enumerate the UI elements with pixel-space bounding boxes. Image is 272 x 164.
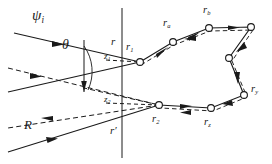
node-label-rb-subscript: b <box>207 9 210 16</box>
dashed-seg-arrow-rz-r2 <box>180 110 191 115</box>
node-label-r2-subscript: 2 <box>156 118 159 125</box>
angle-symbol: θ <box>62 37 69 52</box>
node-r1 <box>137 59 144 66</box>
height-lower-label: z2 <box>104 95 111 105</box>
return-vector-symbol: R <box>24 117 32 132</box>
height-upper-subscript: 1 <box>108 56 111 62</box>
incident-wave-subscript: i <box>42 15 45 25</box>
scatter-path-dashed-upper <box>141 30 253 111</box>
node-label-rb: rb <box>203 5 211 16</box>
node-rb <box>206 25 213 32</box>
incident-ray-line <box>14 33 140 62</box>
dashed-seg-arrow-n1-n2 <box>236 42 247 52</box>
node-rz <box>208 105 215 112</box>
height-upper-label: z1 <box>104 52 111 62</box>
dashed-upper-node-group <box>8 60 140 92</box>
return-vector-label: R <box>24 118 32 131</box>
incident-wave-symbol: ψ <box>32 7 41 23</box>
node-label-rz-subscript: z <box>208 121 211 128</box>
node-corner-middle-right <box>226 55 233 62</box>
solid-seg-arrow-rb-n1 <box>228 25 240 30</box>
dashed-incident-arrowhead <box>30 73 42 79</box>
node-label-r2: r2 <box>152 114 160 125</box>
node-r2 <box>156 102 163 109</box>
angle-label: θ <box>62 38 69 52</box>
incident-ray-group <box>14 33 140 62</box>
height-lower-symbol: z <box>104 94 108 104</box>
node-label-ra: ra <box>163 18 171 29</box>
image-vector-prime: ′ <box>114 124 116 136</box>
node-ra <box>170 39 177 46</box>
node-corner-upper-right <box>248 24 255 31</box>
height-upper-symbol: z <box>104 51 108 61</box>
scattering-path-figure: ψi θ r r′ R z1 z2 r1 ra rb ry rz r2 <box>0 0 272 164</box>
node-label-ra-subscript: a <box>167 22 170 29</box>
source-vector-symbol: r <box>111 35 115 47</box>
node-label-rz: rz <box>204 117 211 128</box>
node-ry <box>241 92 248 99</box>
node-label-ry-subscript: y <box>255 88 258 95</box>
node-label-r1-subscript: 1 <box>130 46 133 53</box>
incident-wave-label: ψi <box>32 8 44 25</box>
node-label-r1: r1 <box>126 42 134 53</box>
angle-marker-group <box>81 40 92 92</box>
outgoing-ray-arrowhead <box>46 137 58 143</box>
image-vector-label: r′ <box>110 125 117 136</box>
dashed-z2-line <box>106 103 159 105</box>
height-lower-subscript: 2 <box>108 99 111 105</box>
dashed-return-arrowhead <box>41 116 53 121</box>
node-label-ry: ry <box>251 84 258 95</box>
source-vector-label: r <box>111 36 115 47</box>
